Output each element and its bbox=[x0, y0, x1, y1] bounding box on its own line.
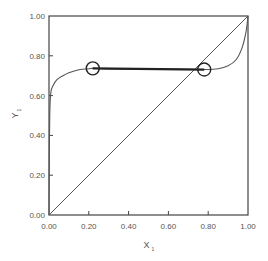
plot-area: 0.000.200.400.600.801.000.000.200.400.60… bbox=[10, 12, 256, 252]
diagonal-line bbox=[49, 16, 248, 215]
x-axis-label: X bbox=[143, 240, 149, 250]
y-tick-label: 1.00 bbox=[29, 12, 45, 21]
x-tick-label: 0.20 bbox=[81, 222, 97, 231]
x-tick-label: 0.00 bbox=[41, 222, 57, 231]
x-tick-label: 0.80 bbox=[200, 222, 216, 231]
y-tick-label: 0.60 bbox=[29, 92, 45, 101]
x-tick-label: 0.40 bbox=[121, 222, 137, 231]
x-tick-label: 1.00 bbox=[240, 222, 256, 231]
chart: 0.000.200.400.600.801.000.000.200.400.60… bbox=[0, 0, 268, 261]
tie-line bbox=[93, 68, 204, 69]
y-axis-label-subscript: 1 bbox=[16, 109, 22, 112]
y-tick-label: 0.00 bbox=[29, 211, 45, 220]
x-axis-label-subscript: 1 bbox=[152, 246, 155, 252]
x-tick-label: 0.60 bbox=[161, 222, 177, 231]
y-axis-label: Y bbox=[10, 112, 20, 118]
y-tick-label: 0.20 bbox=[29, 171, 45, 180]
y-tick-label: 0.40 bbox=[29, 131, 45, 140]
y-tick-label: 0.80 bbox=[29, 52, 45, 61]
